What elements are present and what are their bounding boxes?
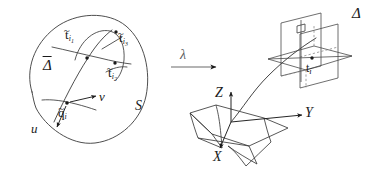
label-t-i1-subsubscript: 1: [71, 38, 74, 44]
left-param-axis-v: [70, 96, 96, 102]
label-t-i-3d: ti: [306, 62, 312, 76]
label-param-u: u: [31, 122, 38, 135]
label-t-i3-subsubscript: 3: [125, 41, 128, 47]
label-t-i-3d-subscript: i: [309, 66, 311, 76]
point-t-i1-dot: [85, 56, 88, 59]
axis-x-line: [220, 122, 231, 148]
label-delta-3d: Δ: [352, 6, 361, 21]
left-transversal-2: [42, 100, 96, 110]
label-t-i2-subsubscript: 2: [114, 76, 117, 82]
axis-y-line: [231, 115, 302, 122]
label-param-v: v: [99, 90, 105, 103]
figure-vector-layer: [0, 0, 378, 176]
left-domain-blob: [30, 15, 148, 143]
point-t-i2-dot: [113, 61, 116, 64]
label-axis-Y: Y: [305, 106, 313, 120]
point-t-i-3d-dot: [310, 56, 313, 59]
label-t-i2: ~ti2: [108, 66, 117, 83]
label-delta-bar: Δ: [43, 58, 52, 73]
figure-canvas: S Δ ~qi u v ~ti1 ~ti3 ~ti2 λ Z Y X Δ ti: [0, 0, 378, 176]
label-axis-Z: Z: [215, 86, 223, 100]
label-delta-bar-text: Δ: [43, 57, 52, 73]
label-t-i3: ~ti3: [119, 31, 128, 48]
point-q-i-dot: [65, 101, 69, 105]
label-q-i: ~qi: [58, 106, 67, 121]
plane-vertical-right: [300, 24, 338, 88]
label-lambda: λ: [180, 48, 186, 62]
left-transversal-1: [52, 47, 131, 64]
label-axis-X: X: [213, 150, 222, 164]
plane-hidden-edges: [281, 24, 338, 88]
right-surface-sheet: [190, 105, 288, 166]
right-delta-curve: [231, 38, 316, 122]
label-t-i1: ~ti1: [65, 28, 74, 45]
label-surface-S: S: [135, 99, 142, 113]
